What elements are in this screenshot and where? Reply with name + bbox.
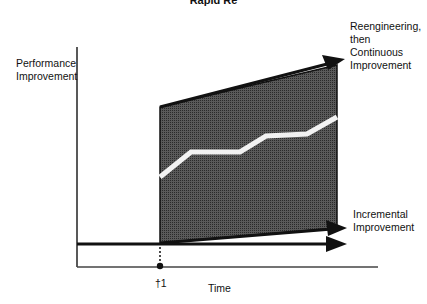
y-axis-label: Performance Improvement (16, 57, 77, 83)
t1-marker-dot (157, 263, 163, 269)
lower-curve-label: Incremental Improvement (353, 208, 414, 234)
x-axis-label: Time (208, 282, 231, 295)
upper-curve-label: Reengineering, then Continuous Improveme… (350, 20, 421, 72)
baseline-arrow-head (326, 236, 347, 252)
t1-label: †1 (155, 277, 167, 290)
